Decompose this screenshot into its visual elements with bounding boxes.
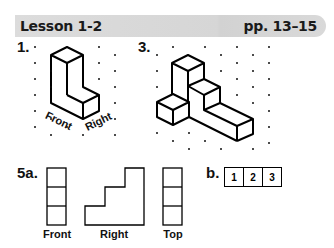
front-view-drawing <box>47 168 66 225</box>
exercise-5b-cell-row: 1 2 3 <box>224 167 282 187</box>
top-view-label: Top <box>160 228 186 240</box>
front-view-label: Front <box>41 228 73 240</box>
top-view-drawing <box>163 168 182 225</box>
right-view-label: Right <box>96 228 132 240</box>
cell-3: 3 <box>263 168 281 186</box>
right-view-drawing <box>85 168 144 225</box>
cell-1: 1 <box>225 168 244 186</box>
cell-2: 2 <box>244 168 263 186</box>
exercise-5a-orthographic-views <box>0 0 334 248</box>
